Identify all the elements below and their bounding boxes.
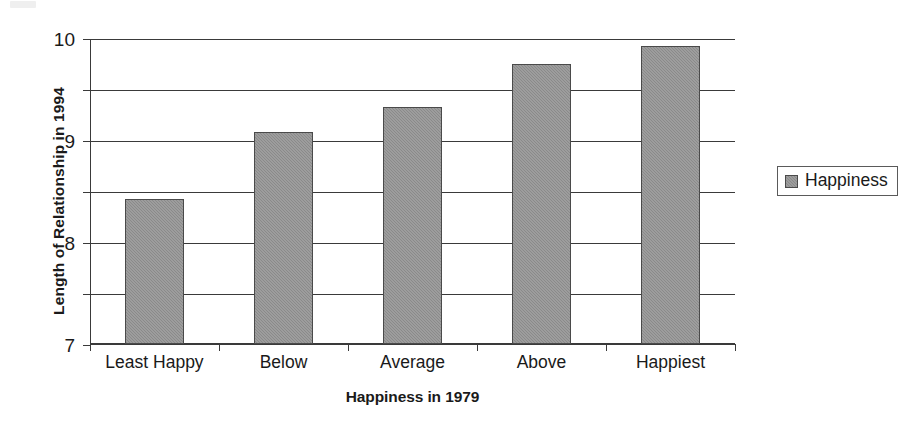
gridline-y — [90, 90, 735, 91]
x-axis-tick — [90, 344, 91, 351]
x-axis-tick — [606, 344, 607, 351]
legend-swatch-happiness — [785, 175, 798, 188]
y-axis-tick-label: 9 — [64, 132, 75, 151]
y-axis-tick-label: 7 — [64, 336, 75, 355]
bar-least-happy — [125, 199, 184, 344]
bar-above — [512, 64, 571, 345]
axis-line-left — [90, 39, 91, 345]
x-axis-category-label: Happiest — [606, 352, 735, 373]
axis-line-top — [90, 39, 735, 40]
x-axis-category-label: Least Happy — [90, 352, 219, 373]
y-axis-title: Length of Relationship in 1994 — [50, 41, 68, 361]
bar-happiest — [641, 46, 700, 344]
x-axis-tick — [348, 344, 349, 351]
y-axis-tick-label: 10 — [54, 30, 75, 49]
legend-label-happiness: Happiness — [805, 172, 888, 190]
x-axis-category-label: Average — [348, 352, 477, 373]
bar-average — [383, 107, 442, 344]
x-axis-tick — [477, 344, 478, 351]
x-axis-category-label: Above — [477, 352, 606, 373]
chart-legend: Happiness — [777, 166, 898, 196]
x-axis-category-label: Below — [219, 352, 348, 373]
bar-chart-figure: Length of Relationship in 1994 45678910 … — [0, 0, 915, 437]
x-axis-title: Happiness in 1979 — [90, 388, 735, 406]
bar-below — [254, 132, 313, 344]
y-axis-tick-label: 8 — [64, 234, 75, 253]
x-axis-tick — [735, 344, 736, 351]
x-axis-tick — [219, 344, 220, 351]
plot-area: 45678910 — [90, 39, 735, 345]
